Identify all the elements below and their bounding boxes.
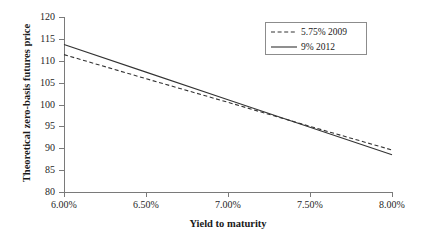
x-tick-label: 8.00% [362, 199, 421, 210]
legend-swatch-dashed-icon [271, 27, 297, 37]
legend-entry-dashed: 5.75% 2009 [266, 24, 366, 40]
x-tick-label: 6.50% [116, 199, 176, 210]
y-tick-label: 105 [21, 78, 55, 88]
legend-label-solid: 9% 2012 [301, 42, 335, 52]
x-tick-label: 7.00% [198, 199, 258, 210]
y-tick-label: 90 [21, 143, 55, 153]
x-tick-label: 7.50% [280, 199, 340, 210]
legend-label-dashed: 5.75% 2009 [301, 27, 347, 37]
x-tick-label: 6.00% [34, 199, 94, 210]
legend-swatch-solid-icon [271, 42, 297, 52]
y-tick-label: 95 [21, 121, 55, 131]
chart-container: Theoretical zero-basis futures price Yie… [0, 0, 421, 242]
y-tick-label: 120 [21, 12, 55, 22]
y-tick-label: 115 [21, 34, 55, 44]
series-line-solid [64, 45, 392, 155]
y-tick-label: 85 [21, 165, 55, 175]
chart-legend: 5.75% 2009 9% 2012 [265, 22, 367, 55]
legend-entry-solid: 9% 2012 [266, 39, 366, 55]
x-tick [392, 192, 393, 197]
x-axis-title: Yield to maturity [64, 218, 392, 229]
y-tick-label: 80 [21, 187, 55, 197]
y-tick-label: 110 [21, 56, 55, 66]
y-tick-label: 100 [21, 100, 55, 110]
series-line-dashed [64, 55, 392, 150]
